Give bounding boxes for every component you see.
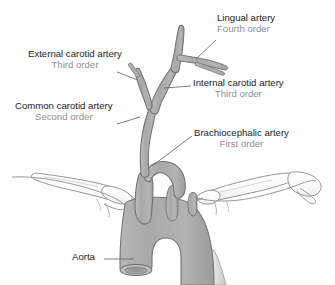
label-brachiocephalic-artery: Brachiocephalic artery First order (194, 128, 289, 149)
leader-line-brachio (152, 136, 192, 166)
label-lingual-artery: Lingual artery Fourth order (217, 13, 275, 34)
leader-line-common (117, 117, 140, 124)
clavicle-right-head (197, 190, 220, 204)
left-subclavian-artery (188, 193, 197, 217)
artery-group (120, 25, 228, 285)
rib-right-tip (226, 201, 228, 212)
label-internal-carotid-artery: Internal carotid artery Third order (193, 78, 284, 99)
label-external-carotid-artery: External carotid artery Third order (28, 49, 122, 70)
aorta-lumen-inner (125, 267, 147, 274)
leader-line-lingual (196, 40, 216, 59)
anatomy-figure-page: Lingual artery Fourth order External car… (0, 0, 335, 285)
label-brachiocephalic-order: First order (194, 139, 289, 150)
humerus-head-right (288, 172, 321, 196)
label-lingual-order: Fourth order (217, 24, 275, 35)
label-aorta-name: Aorta (72, 252, 95, 263)
rib-left-tip (96, 198, 100, 211)
label-internal-carotid-order: Third order (193, 89, 284, 100)
internal-carotid-artery (150, 67, 177, 115)
internal-carotid-upper (171, 25, 184, 72)
label-aorta: Aorta (72, 252, 95, 263)
rib-right-cartilage (214, 201, 216, 215)
label-external-carotid-order: Third order (28, 60, 122, 71)
label-common-carotid-artery: Common carotid artery Second order (15, 101, 113, 122)
label-common-carotid-order: Second order (15, 112, 113, 123)
